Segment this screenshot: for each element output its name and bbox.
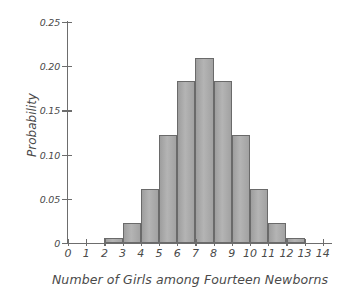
x-axis-tick — [268, 239, 269, 246]
y-axis-tick-label: 0.05 — [26, 193, 60, 204]
bar — [177, 81, 195, 243]
x-axis-tick-label: 14 — [313, 247, 333, 260]
y-axis-tick-label: 0 — [26, 238, 60, 249]
bar — [141, 189, 159, 243]
y-axis-tick — [62, 199, 72, 200]
x-axis-tick-label: 8 — [204, 247, 224, 260]
x-axis-tick — [250, 239, 251, 246]
x-axis-tick-label: 5 — [149, 247, 169, 260]
bar — [195, 58, 213, 243]
bar — [159, 135, 177, 243]
x-axis-title: Number of Girls among Fourteen Newborns — [40, 272, 340, 287]
x-axis-tick — [286, 239, 287, 246]
y-axis-tick-label: 0.25 — [26, 17, 60, 28]
x-axis-tick — [123, 239, 124, 246]
y-axis-tick — [62, 110, 72, 111]
y-axis-line — [67, 21, 68, 244]
x-axis-tick — [195, 239, 196, 246]
bar — [232, 135, 250, 243]
bar — [250, 189, 268, 243]
x-axis-tick-label: 10 — [240, 247, 260, 260]
y-axis-tick-label: 0.20 — [26, 61, 60, 72]
y-axis-tick — [62, 66, 72, 67]
x-axis-tick — [323, 239, 324, 246]
x-axis-tick-label: 9 — [222, 247, 242, 260]
x-axis-line — [67, 243, 332, 244]
x-axis-tick-label: 4 — [131, 247, 151, 260]
x-axis-tick-label: 11 — [258, 247, 278, 260]
y-axis-title: Probability — [25, 75, 39, 175]
plot-area: 00.050.100.150.200.25 012345678910111213… — [0, 0, 350, 296]
x-axis-tick-label: 13 — [295, 247, 315, 260]
bar — [123, 223, 141, 243]
x-axis-tick — [214, 239, 215, 246]
x-axis-tick-label: 1 — [76, 247, 96, 260]
x-axis-tick — [177, 239, 178, 246]
y-axis-tick — [62, 243, 72, 244]
bar — [214, 81, 232, 243]
x-axis-tick-label: 2 — [94, 247, 114, 260]
x-axis-tick-label: 12 — [276, 247, 296, 260]
y-axis-tick — [62, 22, 72, 23]
x-axis-tick — [104, 239, 105, 246]
bar — [268, 223, 286, 243]
x-axis-tick — [305, 239, 306, 246]
x-axis-tick — [68, 239, 69, 246]
x-axis-tick-label: 7 — [185, 247, 205, 260]
x-axis-tick-label: 6 — [167, 247, 187, 260]
x-axis-tick-label: 0 — [58, 247, 78, 260]
x-axis-tick-label: 3 — [113, 247, 133, 260]
x-axis-tick — [232, 239, 233, 246]
chart-figure: 00.050.100.150.200.25 012345678910111213… — [0, 0, 350, 296]
x-axis-tick — [159, 239, 160, 246]
x-axis-tick — [141, 239, 142, 246]
y-axis-tick — [62, 155, 72, 156]
x-axis-tick — [86, 239, 87, 246]
